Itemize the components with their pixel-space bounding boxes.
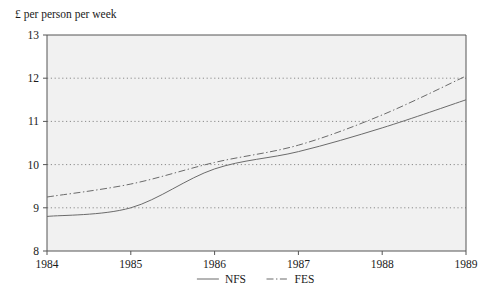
y-tick-label-8: 8 (33, 245, 39, 257)
legend-label-nfs: NFS (225, 273, 246, 285)
x-tick-label-1987: 1987 (287, 258, 310, 270)
chart-plot: 8910111213 198419851986198719881989 NFSF… (0, 0, 498, 293)
x-tick-label-1989: 1989 (455, 258, 478, 270)
x-tick-label-1984: 1984 (36, 258, 59, 270)
y-tick-label-13: 13 (28, 29, 40, 41)
plot-background (47, 35, 466, 251)
x-tick-label-1988: 1988 (371, 258, 394, 270)
x-tick-label-1985: 1985 (119, 258, 142, 270)
chart-container: £ per person per week 8910111213 1984198… (0, 0, 498, 293)
y-tick-label-11: 11 (28, 115, 39, 127)
y-tick-label-9: 9 (33, 202, 39, 214)
x-axis-ticks: 198419851986198719881989 (36, 251, 478, 270)
chart-legend: NFSFES (197, 273, 314, 285)
x-tick-label-1986: 1986 (203, 258, 226, 270)
y-tick-label-10: 10 (28, 159, 40, 171)
y-axis-ticks: 8910111213 (28, 29, 48, 257)
y-tick-label-12: 12 (28, 72, 40, 84)
legend-label-fes: FES (295, 273, 315, 285)
